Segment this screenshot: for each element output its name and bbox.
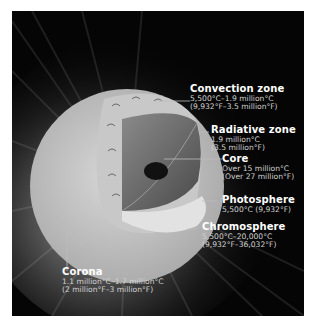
core (144, 162, 168, 180)
label-corona: Corona 1.1 million°C–1.7 million°C (2 mi… (62, 266, 164, 295)
label-chromosphere: Chromosphere 5,500°C–20,000°C (9,932°F–3… (202, 221, 285, 250)
sun-diagram-panel: Convection zone 5,500°C–1.9 million°C (9… (12, 11, 304, 316)
label-photosphere: Photosphere 5,500°C (9,932°F) (222, 194, 295, 214)
label-core: Core Over 15 million°C (Over 27 million°… (222, 153, 294, 182)
label-radiative-zone: Radiative zone 1.9 million°C (3.5 millio… (211, 124, 296, 153)
label-convection-zone: Convection zone 5,500°C–1.9 million°C (9… (190, 83, 284, 112)
